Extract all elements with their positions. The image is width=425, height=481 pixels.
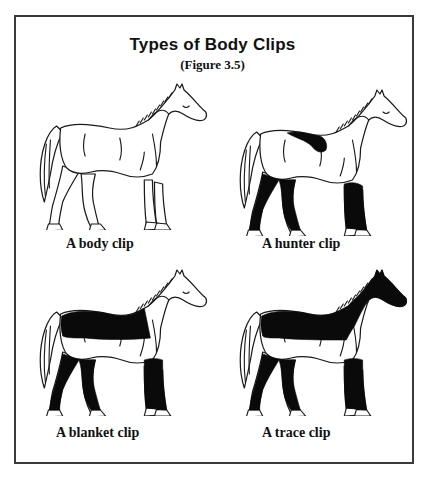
blanket-clip-caption: A blanket clip <box>56 425 139 441</box>
figure-title: Types of Body Clips <box>0 35 425 55</box>
body-clip-caption: A body clip <box>66 236 134 252</box>
trace-clip-horse-illustration <box>220 256 420 416</box>
blanket-clip-horse-illustration <box>20 256 220 416</box>
hunter-clip-caption: A hunter clip <box>262 236 340 252</box>
body-clip-horse-illustration <box>20 70 220 230</box>
hunter-clip-horse-illustration <box>220 76 420 236</box>
trace-clip-caption: A trace clip <box>262 425 330 441</box>
